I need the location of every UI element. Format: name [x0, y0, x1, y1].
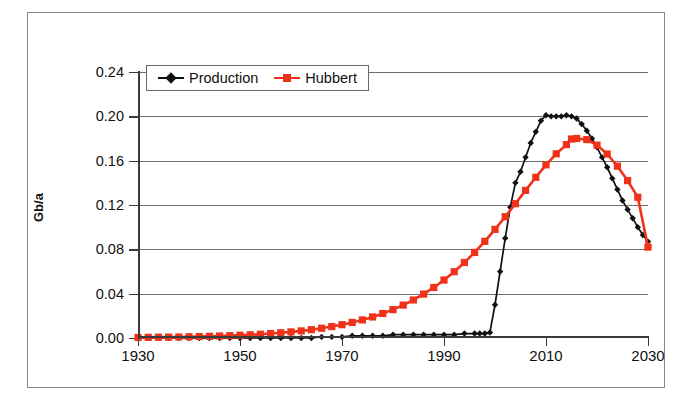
y-axis-tick-label: 0.20	[96, 108, 124, 124]
x-axis-tick-label: 1990	[427, 347, 460, 364]
diamond-marker-icon	[492, 302, 498, 308]
y-axis-line	[138, 71, 140, 339]
chart-legend: ProductionHubbert	[146, 65, 369, 91]
square-marker-icon	[542, 161, 549, 168]
square-marker-icon	[318, 325, 325, 332]
square-marker-icon	[512, 200, 519, 207]
diamond-marker-icon	[517, 169, 523, 175]
y-axis-tick	[129, 161, 138, 162]
legend-label: Production	[189, 70, 258, 86]
square-marker-icon	[420, 291, 427, 298]
square-marker-icon	[359, 316, 366, 323]
square-marker-icon	[451, 268, 458, 275]
square-marker-icon	[532, 174, 539, 181]
data-series-group	[138, 72, 648, 338]
y-axis-tick-label: 0.12	[96, 197, 124, 213]
figure-canvas: Gb/a 0.000.040.080.120.160.200.24 193019…	[0, 0, 678, 401]
x-axis-tick-label: 2010	[529, 347, 562, 364]
x-axis-tick-label: 1970	[325, 347, 358, 364]
square-marker-icon	[573, 135, 580, 142]
y-axis-label: Gb/a	[28, 200, 98, 222]
series-line	[138, 115, 648, 338]
square-marker-icon	[338, 321, 345, 328]
square-marker-icon	[481, 238, 488, 245]
plot-area: 0.000.040.080.120.160.200.24 19301950197…	[138, 72, 648, 338]
square-marker-icon	[277, 329, 284, 336]
y-axis-tick	[129, 116, 138, 117]
square-marker-icon	[471, 249, 478, 256]
y-axis-tick-label: 0.08	[96, 241, 124, 257]
x-axis-tick-label: 2030	[631, 347, 664, 364]
y-axis-tick	[129, 249, 138, 250]
diamond-marker-icon	[604, 164, 610, 170]
diamond-marker-icon	[487, 329, 493, 335]
diamond-marker-icon	[502, 235, 508, 241]
square-marker-icon	[461, 259, 468, 266]
diamond-marker-icon	[528, 140, 534, 146]
square-marker-icon	[440, 276, 447, 283]
y-axis-tick	[129, 294, 138, 295]
square-marker-icon	[283, 74, 291, 82]
square-marker-icon	[379, 310, 386, 317]
square-marker-icon	[298, 327, 305, 334]
x-axis-tick	[444, 338, 445, 346]
square-marker-icon	[614, 163, 621, 170]
legend-item-hubbert: Hubbert	[274, 70, 357, 86]
legend-item-production: Production	[158, 70, 258, 86]
square-marker-icon	[400, 301, 407, 308]
x-axis-tick	[546, 338, 547, 346]
y-axis-tick-label: 0.16	[96, 153, 124, 169]
square-marker-icon	[369, 313, 376, 320]
square-marker-icon	[634, 194, 641, 201]
diamond-marker-icon	[512, 180, 518, 186]
diamond-marker-icon	[558, 113, 564, 119]
square-marker-icon	[553, 150, 560, 157]
diamond-marker-icon	[609, 175, 615, 181]
square-marker-icon	[430, 284, 437, 291]
square-marker-icon	[583, 136, 590, 143]
figure-frame-border: Gb/a 0.000.040.080.120.160.200.24 193019…	[27, 12, 665, 388]
square-marker-icon	[491, 226, 498, 233]
diamond-marker-icon	[165, 72, 176, 83]
diamond-marker-icon	[497, 268, 503, 274]
x-axis-tick	[648, 338, 649, 346]
y-axis-tick	[129, 72, 138, 73]
square-marker-icon	[644, 244, 651, 251]
square-marker-icon	[604, 150, 611, 157]
square-marker-icon	[389, 306, 396, 313]
series-hubbert	[134, 135, 651, 341]
square-marker-icon	[624, 177, 631, 184]
y-axis-tick-label: 0.04	[96, 286, 124, 302]
y-axis-tick-label: 0.24	[96, 64, 124, 80]
diamond-marker-icon	[614, 186, 620, 192]
y-axis-tick	[129, 205, 138, 206]
square-marker-icon	[502, 213, 509, 220]
square-marker-icon	[328, 323, 335, 330]
x-axis-tick-label: 1930	[121, 347, 154, 364]
diamond-marker-icon	[563, 112, 569, 118]
legend-label: Hubbert	[305, 70, 357, 86]
square-marker-icon	[308, 326, 315, 333]
square-marker-icon	[410, 296, 417, 303]
square-marker-icon	[522, 187, 529, 194]
x-axis-tick-label: 1950	[223, 347, 256, 364]
square-marker-icon	[593, 142, 600, 149]
x-axis-line	[138, 336, 649, 338]
square-marker-icon	[287, 328, 294, 335]
square-marker-icon	[349, 319, 356, 326]
diamond-marker-icon	[533, 129, 539, 135]
y-axis-tick-label: 0.00	[96, 330, 124, 346]
diamond-marker-icon	[522, 154, 528, 160]
